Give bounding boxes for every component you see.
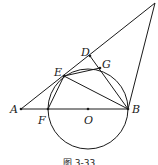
point-a [20, 108, 23, 111]
line-top-b [128, 3, 155, 109]
label-a: A [9, 103, 18, 116]
geometry-figure: A F O B E D G 图 3-33 [0, 0, 158, 165]
point-o [87, 108, 90, 111]
label-e: E [53, 66, 62, 79]
label-o: O [84, 114, 93, 127]
point-g [99, 67, 102, 70]
label-b: B [131, 103, 140, 116]
label-d: D [80, 46, 90, 59]
label-g: G [102, 58, 111, 71]
point-b [127, 108, 130, 111]
point-e [63, 75, 66, 78]
segment-eb [64, 76, 128, 109]
point-f [47, 108, 50, 111]
label-f: F [37, 114, 46, 127]
figure-caption: 图 3-33 [63, 158, 95, 165]
